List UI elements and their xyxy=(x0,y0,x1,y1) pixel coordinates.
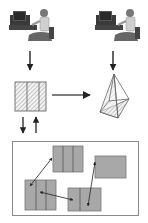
block-right xyxy=(95,156,126,178)
block-top xyxy=(53,146,83,172)
block-bottom-center xyxy=(68,188,101,211)
pyramid-model-icon xyxy=(100,74,129,118)
workflow-diagram xyxy=(0,0,148,223)
plan-view-block xyxy=(15,82,46,111)
user-at-computer-icon xyxy=(95,9,140,41)
user-at-computer-icon xyxy=(9,9,54,41)
